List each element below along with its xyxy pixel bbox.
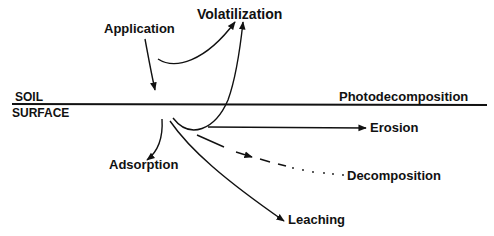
label-volatilization: Volatilization — [197, 7, 282, 21]
arrows-layer — [0, 0, 494, 236]
volatilization-arrow-subsurface — [173, 22, 243, 130]
label-application: Application — [104, 22, 175, 35]
label-photodecomposition: Photodecomposition — [339, 90, 468, 103]
leaching-arrow — [170, 121, 284, 221]
label-surface: SURFACE — [12, 107, 69, 119]
application-arrow — [145, 39, 155, 90]
label-erosion: Erosion — [370, 121, 418, 134]
label-decomposition: Decomposition — [347, 169, 441, 182]
adsorption-arrow — [147, 119, 162, 160]
decomposition-arrow-head — [236, 152, 252, 157]
label-soil: SOIL — [15, 91, 43, 103]
soil-surface-line — [12, 104, 487, 105]
decomposition-arrow-dash1 — [260, 159, 270, 162]
label-leaching: Leaching — [288, 213, 345, 226]
soil-fate-diagram: Volatilization Application SOIL SURFACE … — [0, 0, 494, 236]
label-adsorption: Adsorption — [109, 158, 178, 171]
decomposition-arrow-start — [197, 135, 224, 147]
decomposition-arrow-dash2 — [278, 164, 286, 166]
erosion-arrow — [208, 127, 366, 128]
decomposition-arrow-dots — [292, 167, 344, 176]
